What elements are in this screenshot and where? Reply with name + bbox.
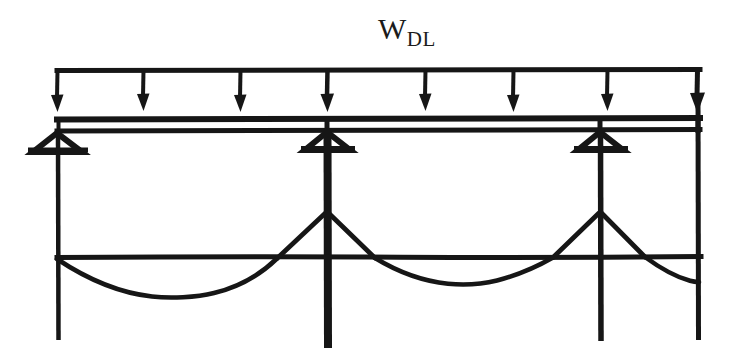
load-line	[57, 70, 700, 71]
beam-bottom-flange	[57, 130, 700, 132]
column-middle	[328, 131, 329, 348]
load-arrow	[234, 70, 247, 112]
load-label-main: W	[378, 12, 407, 45]
moment-hog-peak-right-left	[553, 213, 599, 258]
moment-hog-peak-right-right	[602, 213, 646, 257]
column-left	[58, 133, 59, 340]
moment-hog-peak-middle-left	[277, 213, 326, 259]
moment-sag-span-2	[375, 258, 553, 285]
load-arrow	[137, 70, 150, 111]
moment-hog-peak-middle-right	[328, 213, 375, 259]
load-label: WDL	[378, 14, 436, 50]
load-arrow	[507, 70, 520, 112]
load-arrow	[419, 70, 432, 111]
moment-sag-span-1	[57, 259, 277, 298]
beam-top-flange	[57, 118, 700, 120]
beam-group	[57, 116, 700, 133]
structural-diagram: WDL	[0, 0, 734, 356]
load-arrow	[601, 70, 614, 111]
diagram-canvas	[0, 0, 734, 356]
load-label-subscript: DL	[407, 27, 436, 51]
load-arrow	[321, 70, 335, 112]
distributed-load-group	[51, 70, 705, 114]
load-arrow	[51, 70, 64, 112]
moment-sag-span-3	[645, 257, 699, 282]
column-right-inner	[601, 131, 602, 341]
moment-baseline	[57, 257, 701, 258]
column-right-end	[698, 95, 699, 340]
bending-moment-diagram	[57, 213, 701, 298]
